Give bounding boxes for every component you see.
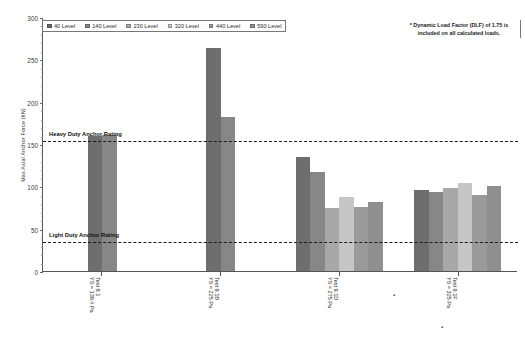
legend: 40 Level140 Level230 Level320 Level440 L… <box>42 20 286 32</box>
x-axis-group: Test 9.1DYS = 275 Pa <box>280 273 399 337</box>
legend-swatch-icon <box>85 24 90 29</box>
bar[interactable] <box>472 195 487 271</box>
y-tick-label: 300 <box>1 15 43 22</box>
x-axis-label-line1: Test 9.1B <box>214 277 220 300</box>
bar[interactable] <box>310 172 325 271</box>
bar[interactable] <box>443 188 458 271</box>
legend-item[interactable]: 140 Level <box>85 23 116 29</box>
legend-swatch-icon <box>126 24 131 29</box>
bar-set <box>280 18 399 271</box>
bar[interactable] <box>487 186 502 272</box>
legend-swatch-icon <box>209 24 214 29</box>
y-tick-label: 50 <box>1 226 43 233</box>
bar-set <box>399 18 518 271</box>
x-axis-label: Test 9.1DYS = 275 Pa <box>326 277 338 308</box>
plot-area: Max Axial Anchor Force (kN) 050100150200… <box>42 18 517 272</box>
note-box: * Dynamic Load Factor (DLF) of 1.75 is i… <box>395 20 521 38</box>
x-axis-label-line1: Test 9.1 <box>95 277 101 296</box>
bar[interactable] <box>429 192 444 271</box>
legend-item[interactable]: 440 Level <box>209 23 240 29</box>
note-line-1: * Dynamic Load Factor (DLF) of 1.75 is <box>399 21 519 29</box>
x-axis-label: Test 9.1YS = 139.4 Pa <box>89 277 101 313</box>
y-tick-label: 150 <box>1 142 43 149</box>
x-tick-mark <box>220 272 221 276</box>
bar[interactable] <box>102 135 117 271</box>
reference-line <box>43 242 518 243</box>
x-axis-label-line1: Test 9.1F <box>452 277 458 300</box>
chart-container: Max Axial Anchor Force (kN) 050100150200… <box>0 0 525 338</box>
x-axis-label-line2: YS = 325 Pa <box>445 277 451 308</box>
legend-swatch-icon <box>168 24 173 29</box>
y-tick-label: 100 <box>1 184 43 191</box>
note-line-2: included on all calculated loads. <box>399 29 519 37</box>
bar[interactable] <box>296 157 311 271</box>
bar[interactable] <box>354 207 369 271</box>
legend-label: 40 Level <box>54 23 75 29</box>
legend-swatch-icon <box>250 24 255 29</box>
x-tick-mark <box>458 272 459 276</box>
legend-label: 230 Level <box>133 23 157 29</box>
bar-group <box>162 18 281 271</box>
x-axis-label: Test 9.1BYS = 225 Pa <box>208 277 220 308</box>
legend-item[interactable]: 320 Level <box>168 23 199 29</box>
bar[interactable] <box>458 183 473 271</box>
y-tick-label: 200 <box>1 99 43 106</box>
legend-label: 140 Level <box>92 23 116 29</box>
bar-group <box>280 18 399 271</box>
y-tick-label: 0 <box>1 269 43 276</box>
x-axis-label-line1: Test 9.1D <box>333 277 339 300</box>
stray-mark-2: ▪ <box>441 324 443 330</box>
bar-set <box>162 18 281 271</box>
y-tick-label: 250 <box>1 57 43 64</box>
bar[interactable] <box>414 190 429 271</box>
legend-item[interactable]: 40 Level <box>47 23 75 29</box>
stray-mark-1: ▪ <box>393 292 395 298</box>
note-box-edge <box>520 20 521 38</box>
reference-line-label: Light Duty Anchor Rating <box>49 232 119 238</box>
legend-item[interactable]: 590 Level <box>250 23 281 29</box>
legend-label: 320 Level <box>175 23 199 29</box>
bar[interactable] <box>88 136 103 271</box>
reference-line <box>43 141 518 142</box>
x-axis-label-line2: YS = 225 Pa <box>208 277 214 308</box>
legend-swatch-icon <box>47 24 52 29</box>
reference-line-label: Heavy Duty Anchor Rating <box>49 131 122 137</box>
bar[interactable] <box>206 48 221 271</box>
x-axis-label-line2: YS = 275 Pa <box>326 277 332 308</box>
legend-label: 590 Level <box>257 23 281 29</box>
x-axis-labels: Test 9.1YS = 139.4 PaTest 9.1BYS = 225 P… <box>42 273 517 337</box>
bar[interactable] <box>368 202 383 271</box>
bar-group <box>399 18 518 271</box>
bar[interactable] <box>339 197 354 272</box>
x-tick-mark <box>339 272 340 276</box>
legend-label: 440 Level <box>216 23 240 29</box>
legend-item[interactable]: 230 Level <box>126 23 157 29</box>
x-axis-group: Test 9.1FYS = 325 Pa <box>398 273 517 337</box>
bar[interactable] <box>325 208 340 272</box>
x-axis-group: Test 9.1BYS = 225 Pa <box>161 273 280 337</box>
plot-inner: Heavy Duty Anchor RatingLight Duty Ancho… <box>43 18 517 271</box>
x-axis-label: Test 9.1FYS = 325 Pa <box>445 277 457 308</box>
x-axis-group: Test 9.1YS = 139.4 Pa <box>42 273 161 337</box>
x-axis-label-line2: YS = 139.4 Pa <box>89 277 95 313</box>
x-tick-mark <box>101 272 102 276</box>
